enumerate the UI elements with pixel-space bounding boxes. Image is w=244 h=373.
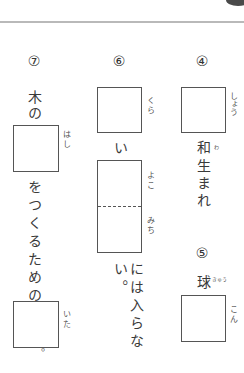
q7-middle-text: をつくるための	[26, 180, 42, 306]
question-number-7: ⑦	[24, 54, 44, 68]
q5-reading-kon: こん	[228, 305, 237, 325]
question-number-6: ⑥	[109, 54, 129, 68]
corner-decoration	[226, 0, 244, 6]
q7-answer-box-hashi[interactable]	[13, 125, 59, 172]
q5-reading-kyuu: きゅう	[212, 276, 227, 282]
q7-reading-hashi: はし	[61, 130, 70, 150]
q6-box-divider	[98, 206, 141, 207]
q5-answer-box-kon[interactable]	[181, 295, 226, 342]
q7-lead-text: 木の	[26, 90, 42, 122]
q7-reading-ita: いた	[61, 310, 70, 330]
q6-tail-text: には入らない。	[112, 262, 144, 373]
q4-reading-wa: わ	[214, 144, 219, 150]
q4-answer-box-shou[interactable]	[181, 87, 226, 133]
q6-reading-yoko: よこ	[145, 171, 154, 191]
q4-kanji-wa: 和	[195, 140, 211, 156]
q6-answer-box-kura[interactable]	[97, 87, 142, 133]
header-divider	[0, 21, 244, 23]
q6-connector-text: い	[112, 141, 128, 157]
q5-lead-kanji: 球	[195, 275, 211, 291]
q4-reading-shou: しょう	[228, 92, 237, 116]
question-number-5: ⑤	[192, 246, 212, 260]
question-number-4: ④	[192, 54, 212, 68]
q6-reading-kura: くら	[145, 96, 154, 116]
q6-reading-michi: みち	[145, 216, 154, 236]
q4-tail-text: 生まれ	[195, 159, 211, 210]
q6-answer-box-yokomichi[interactable]	[97, 160, 142, 253]
q7-period: 。	[30, 348, 46, 360]
q7-answer-box-ita[interactable]	[13, 301, 59, 348]
